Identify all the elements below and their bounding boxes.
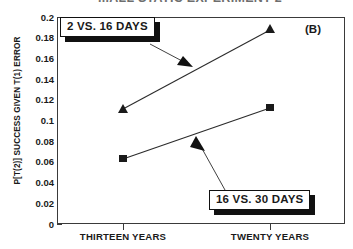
y-tick-label: 0.06 <box>14 157 54 167</box>
y-tick-label: 0.08 <box>14 137 54 147</box>
x-tick-label-thirteen-years: THIRTEEN YEARS <box>58 231 188 242</box>
y-tick-label: 0.18 <box>14 33 54 43</box>
panel-letter: (B) <box>305 23 321 35</box>
x-tickmark <box>123 224 124 230</box>
figure-panel-b: ...ALL STATIC EXPERIMENT 2 P[T(2)] SUCCE… <box>0 0 353 249</box>
callout-2-vs-16-days: 2 VS. 16 DAYS <box>60 17 155 37</box>
y-tick-label: 0.16 <box>14 54 54 64</box>
y-tick-label: 0.12 <box>14 95 54 105</box>
y-tick-label: 0.2 <box>14 13 54 23</box>
y-tick-label: 0 <box>14 220 54 230</box>
y-tick-label: 0.14 <box>14 75 54 85</box>
chart-title: ...ALL STATIC EXPERIMENT 2 <box>55 0 325 2</box>
y-tick-label: 0.04 <box>14 178 54 188</box>
callout-16-vs-30-days: 16 VS. 30 DAYS <box>209 190 310 210</box>
y-axis-title: P[T(2)] SUCCESS GIVEN T(1) ERROR <box>13 16 22 206</box>
y-tickmark <box>57 224 62 225</box>
x-tickmark <box>270 224 271 230</box>
y-tick-label: 0.1 <box>14 116 54 126</box>
y-tick-label: 0.02 <box>14 199 54 209</box>
x-tick-label-twenty-years: TWENTY YEARS <box>205 231 335 242</box>
